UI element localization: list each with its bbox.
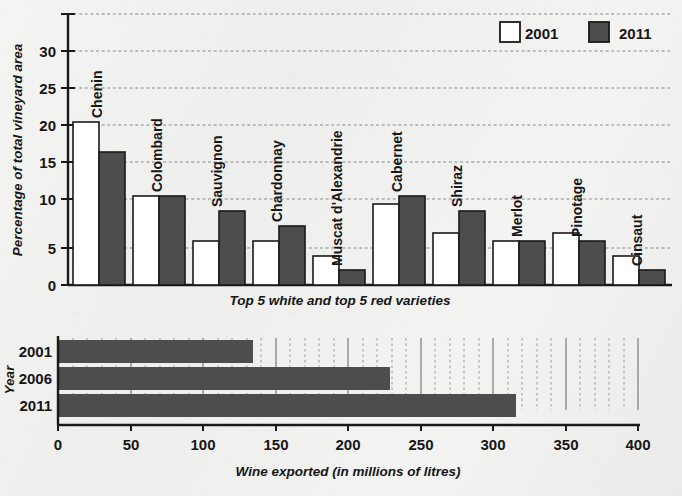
vineyard-area-bar-chart: 0 5 10 15 20 25 30 Percentage of total v… — [0, 0, 682, 310]
y-tick-0: 0 — [48, 277, 56, 294]
white-swatch — [500, 22, 520, 42]
top-chart-legend: 2001 2011 — [500, 22, 652, 42]
x-tick-250: 250 — [408, 436, 433, 453]
bottom-chart-bars — [59, 340, 516, 417]
x-tick-100: 100 — [190, 436, 215, 453]
y-tick-25: 25 — [39, 80, 56, 97]
bar-chenin-2011 — [99, 152, 125, 285]
cat-label-muscat: Muscat d'Alexandrie — [329, 130, 345, 266]
cat-label-2011: 2011 — [19, 397, 52, 414]
bar-export-2011 — [59, 394, 516, 417]
cat-label-cinsaut: Cinsaut — [629, 214, 645, 266]
bar-cabernet-2011 — [399, 196, 425, 285]
bar-group-pinotage — [553, 233, 605, 285]
cat-label-chenin: Chenin — [89, 71, 105, 118]
y-tick-10: 10 — [39, 191, 56, 208]
bar-sauvignon-2011 — [219, 211, 245, 285]
bar-merlot-2011 — [519, 241, 545, 285]
bar-chenin-2001 — [73, 122, 99, 285]
bar-pinotage-2001 — [553, 233, 579, 285]
bar-export-2001 — [59, 340, 253, 363]
bar-group-sauvignon — [193, 211, 245, 285]
wine-exported-bar-chart: 0 50 100 150 200 250 300 350 400 2001 20… — [0, 310, 682, 496]
x-tick-150: 150 — [263, 436, 288, 453]
bar-cinsaut-2011 — [639, 270, 665, 285]
bar-cabernet-2001 — [373, 204, 399, 285]
bar-chardonnay-2011 — [279, 226, 305, 285]
y-tick-30: 30 — [39, 43, 56, 60]
top-chart-y-axis-title: Percentage of total vineyard area — [10, 43, 25, 256]
bar-export-2006 — [59, 367, 390, 390]
x-tick-350: 350 — [553, 436, 578, 453]
cat-label-chardonnay: Chardonnay — [269, 140, 285, 222]
bar-muscat-2011 — [339, 270, 365, 285]
bar-merlot-2001 — [493, 241, 519, 285]
y-tick-20: 20 — [39, 117, 56, 134]
bar-group-merlot — [493, 241, 545, 285]
bar-colombard-2001 — [133, 196, 159, 285]
cat-label-colombard: Colombard — [149, 118, 165, 192]
legend-label-2011: 2011 — [619, 25, 652, 42]
chart-page: 0 5 10 15 20 25 30 Percentage of total v… — [0, 0, 682, 496]
x-tick-300: 300 — [480, 436, 505, 453]
top-chart-caption: Top 5 white and top 5 red varieties — [230, 293, 451, 308]
cat-label-2006: 2006 — [19, 370, 52, 387]
bar-sauvignon-2001 — [193, 241, 219, 285]
bottom-chart-x-axis-title: Wine exported (in millions of litres) — [236, 464, 461, 479]
bar-group-chardonnay — [253, 226, 305, 285]
x-tick-50: 50 — [123, 436, 140, 453]
bar-group-colombard — [133, 196, 185, 285]
bar-group-shiraz — [433, 211, 485, 285]
dark-swatch — [589, 22, 609, 42]
x-tick-200: 200 — [335, 436, 360, 453]
cat-label-merlot: Merlot — [509, 195, 525, 237]
bar-chardonnay-2001 — [253, 241, 279, 285]
y-tick-15: 15 — [39, 154, 56, 171]
bar-group-cabernet — [373, 196, 425, 285]
bottom-chart-y-axis-title: Year — [2, 365, 17, 395]
bar-colombard-2011 — [159, 196, 185, 285]
bar-shiraz-2011 — [459, 211, 485, 285]
x-tick-0: 0 — [54, 436, 62, 453]
bottom-chart-y-category-labels: 2001 2006 2011 — [19, 343, 52, 414]
cat-label-sauvignon: Sauvignon — [209, 135, 225, 207]
cat-label-2001: 2001 — [19, 343, 52, 360]
bottom-chart-x-tick-labels: 0 50 100 150 200 250 300 350 400 — [54, 436, 651, 453]
y-tick-5: 5 — [48, 240, 56, 257]
cat-label-cabernet: Cabernet — [389, 131, 405, 192]
cat-label-pinotage: Pinotage — [569, 178, 585, 237]
cat-label-shiraz: Shiraz — [449, 165, 465, 207]
legend-label-2001: 2001 — [525, 25, 558, 42]
bar-group-chenin — [73, 122, 125, 285]
top-chart-y-tick-labels: 0 5 10 15 20 25 30 — [39, 43, 56, 294]
bar-shiraz-2001 — [433, 233, 459, 285]
bar-pinotage-2011 — [579, 241, 605, 285]
x-tick-400: 400 — [625, 436, 650, 453]
